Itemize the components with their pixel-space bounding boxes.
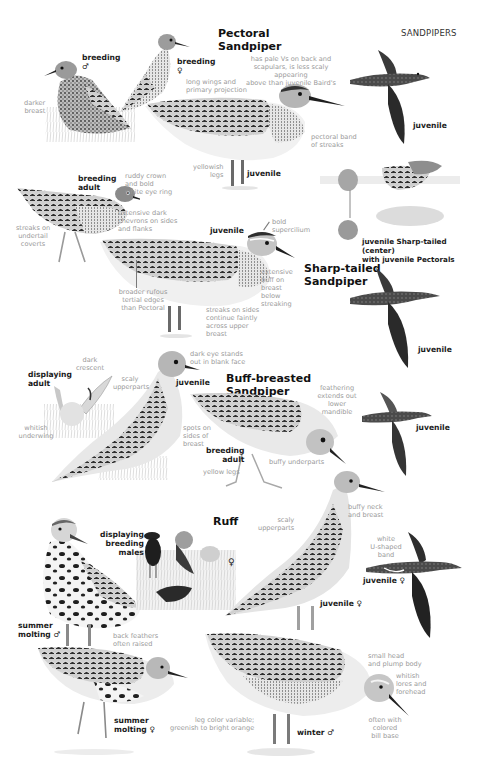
sharptailed-flight-juvenile-tag: juvenile xyxy=(418,345,452,354)
note-small-head: small head and plump body xyxy=(368,652,422,668)
note-buffy-neck: buffy neck and breast xyxy=(348,503,383,519)
ruff-winter-male-illustration xyxy=(203,630,413,766)
note-darker-breast: darker breast xyxy=(24,99,45,115)
ruff-summer-molting-female-tag: summer molting ♀ xyxy=(114,716,155,734)
note-whitish-lores: whitish lores and forehead xyxy=(396,672,426,696)
buffbreasted-juvenile-tag: juvenile xyxy=(176,378,210,387)
pectoral-juvenile-tag: juvenile xyxy=(247,169,281,178)
note-bold-supercilium: bold supercilium xyxy=(272,218,310,234)
sharptailed-juvenile-tag: juvenile xyxy=(210,226,244,235)
note-leg-color: leg color variable; greenish to bright o… xyxy=(170,716,254,732)
note-streaks-undertail: streaks on undertail coverts xyxy=(14,224,52,248)
note-buffy-underparts: buffy underparts xyxy=(269,458,324,466)
leader-line xyxy=(136,260,137,288)
sharptailed-group-caption: juvenile Sharp-tailed (center) with juve… xyxy=(362,237,478,264)
note-ruddy-crown: ruddy crown and bold white eye ring xyxy=(125,172,172,196)
buffbreasted-breeding-adult-tag: breeding adult xyxy=(206,446,244,464)
note-white-u-band: white U-shaped band xyxy=(364,535,408,559)
note-streaks-continue: streaks on sides continue faintly across… xyxy=(206,306,259,338)
ruff-flight-juvenile-female-tag: juvenile ♀ xyxy=(363,576,405,585)
ruff-winter-male-tag: winter ♂ xyxy=(297,728,334,737)
pectoral-flight-juvenile-illustration xyxy=(348,44,438,154)
buffbreasted-flight-juvenile-illustration xyxy=(362,390,432,480)
pectoral-breeding-female-tag: breeding ♀ xyxy=(177,57,215,75)
note-ruff-scaly-upperparts: scaly upperparts xyxy=(258,516,294,532)
note-yellowish-legs: yellowish legs xyxy=(193,163,224,179)
section-header: SANDPIPERS xyxy=(401,28,457,38)
note-colored-bill-base: often with colored bill base xyxy=(363,716,407,740)
note-broader-tertial: broader rufous tertial edges than Pector… xyxy=(110,288,176,312)
note-dark-eye: dark eye stands out in blank face xyxy=(190,350,245,366)
note-pale-vs: has pale Vs on back and scapulars, is le… xyxy=(236,55,346,87)
note-feathering-mandible: feathering extends out lower mandible xyxy=(316,384,358,416)
field-guide-page: SANDPIPERS Pectoral Sandpiper breeding ♂… xyxy=(0,0,478,766)
ruff-summer-molting-female-illustration xyxy=(34,644,194,759)
sharptailed-breeding-adult-tag: breeding adult xyxy=(78,174,116,192)
note-extensive-buff: extensive buff on breast below streaking xyxy=(261,268,293,308)
ruff-lek-illustration xyxy=(136,530,236,615)
ruff-summer-molting-male-tag: summer molting ♂ xyxy=(18,621,60,639)
ruff-displaying-males-tag: displaying breeding males xyxy=(100,530,144,557)
buffbreasted-juvenile-illustration xyxy=(48,348,208,483)
sharptailed-flight-juvenile-illustration xyxy=(348,264,443,374)
ruff-juvenile-female-tag: juvenile ♀ xyxy=(320,599,362,608)
species-title-pectoral: Pectoral Sandpiper xyxy=(218,27,281,53)
buffbreasted-flight-juvenile-tag: juvenile xyxy=(416,423,450,432)
note-scaly-upperparts: scaly upperparts xyxy=(113,375,147,391)
sharptailed-group-illustration xyxy=(320,158,460,243)
pectoral-flight-juvenile-tag: juvenile xyxy=(413,121,447,130)
